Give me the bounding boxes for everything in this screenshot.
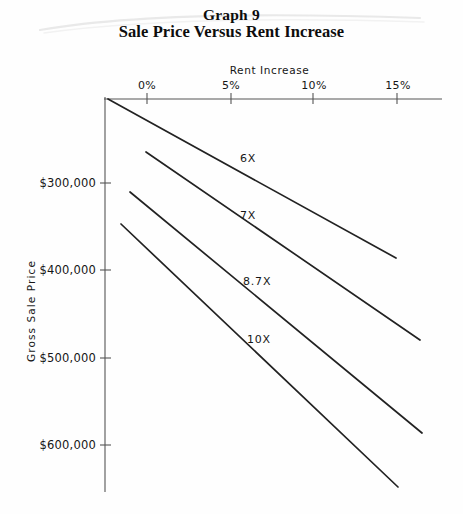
series-line-6x	[108, 99, 396, 258]
y-tick-label-0: $300,000	[0, 176, 96, 190]
series-line-8-7x	[130, 192, 422, 433]
chart-plot-area: Rent Increase Gross Sale Price 0% 5% 10%…	[0, 0, 463, 514]
data-series-lines	[108, 99, 422, 487]
y-tick-label-1: $400,000	[0, 263, 96, 277]
x-tick-label-2: 10%	[301, 79, 326, 92]
series-line-10x	[121, 224, 398, 487]
series-line-7x	[146, 152, 420, 340]
x-axis-title: Rent Increase	[38, 64, 463, 76]
series-label-8-7x: 8.7X	[243, 275, 271, 288]
series-label-6x: 6X	[240, 152, 256, 165]
y-tick-label-3: $600,000	[0, 438, 96, 452]
document-page: Graph 9 Sale Price Versus Rent Increase	[0, 0, 463, 514]
x-tick-label-0: 0%	[138, 79, 156, 92]
x-tick-label-1: 5%	[222, 79, 240, 92]
y-tick-label-2: $500,000	[0, 351, 96, 365]
chart-svg	[0, 0, 463, 514]
series-label-10x: 10X	[247, 333, 271, 346]
series-label-7x: 7X	[240, 209, 256, 222]
x-tick-label-3: 15%	[385, 79, 410, 92]
